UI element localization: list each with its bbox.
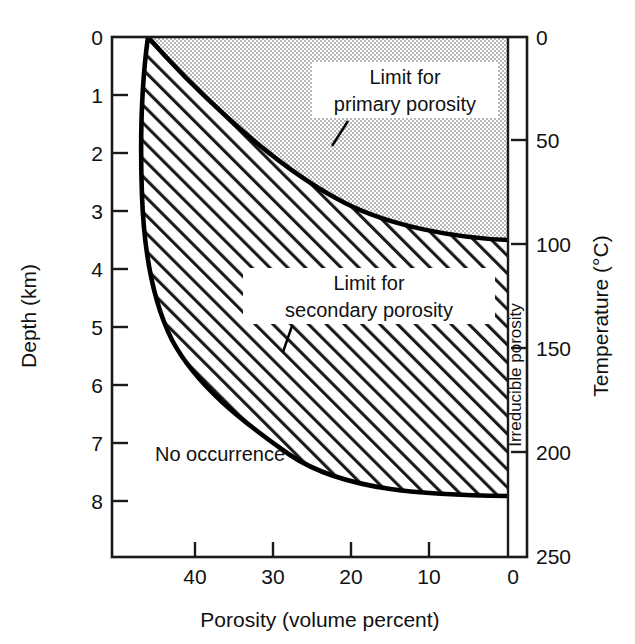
right-tick-250: 250 (536, 545, 571, 568)
left-tick-3: 3 (91, 200, 103, 223)
bottom-axis-ticks (195, 542, 429, 557)
right-tick-0: 0 (536, 26, 548, 49)
right-tick-50: 50 (536, 129, 559, 152)
left-axis-ticks (112, 95, 128, 501)
porosity-depth-chart: 0 1 2 3 4 5 6 7 8 0 50 100 150 200 250 4… (0, 0, 635, 644)
no-occurrence-label: No occurrence (155, 443, 285, 465)
left-axis-tick-labels: 0 1 2 3 4 5 6 7 8 (91, 26, 103, 513)
left-tick-8: 8 (91, 490, 103, 513)
left-tick-2: 2 (91, 142, 103, 165)
bottom-tick-10: 10 (417, 565, 440, 588)
y-axis-title: Depth (km) (17, 264, 40, 368)
irreducible-porosity-band (508, 37, 527, 557)
right-tick-200: 200 (536, 441, 571, 464)
bottom-tick-20: 20 (339, 565, 362, 588)
right-axis-tick-labels: 0 50 100 150 200 250 (536, 26, 571, 568)
secondary-annotation-line2: secondary porosity (285, 299, 453, 321)
left-tick-0: 0 (91, 26, 103, 49)
irreducible-porosity-label: Irreducible porosity (506, 303, 525, 447)
left-tick-5: 5 (91, 316, 103, 339)
bottom-tick-0: 0 (507, 565, 519, 588)
left-tick-7: 7 (91, 432, 103, 455)
secondary-annotation-line1: Limit for (333, 272, 404, 294)
left-tick-4: 4 (91, 258, 103, 281)
chart-svg: 0 1 2 3 4 5 6 7 8 0 50 100 150 200 250 4… (0, 0, 635, 644)
bottom-axis-tick-labels: 40 30 20 10 0 (183, 565, 519, 588)
y2-axis-title: Temperature (°C) (589, 235, 612, 396)
primary-annotation-line2: primary porosity (334, 93, 476, 115)
bottom-tick-30: 30 (261, 565, 284, 588)
bottom-tick-40: 40 (183, 565, 206, 588)
left-tick-1: 1 (91, 84, 103, 107)
left-tick-6: 6 (91, 374, 103, 397)
x-axis-title: Porosity (volume percent) (200, 608, 439, 631)
right-tick-150: 150 (536, 337, 571, 360)
primary-annotation-line1: Limit for (369, 66, 440, 88)
right-tick-100: 100 (536, 233, 571, 256)
